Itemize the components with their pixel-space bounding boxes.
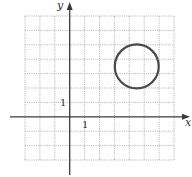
y-tick-label: 1	[60, 97, 66, 108]
circle	[115, 44, 159, 88]
y-axis-arrow-icon	[67, 2, 73, 10]
x-tick-label: 1	[82, 119, 88, 130]
coordinate-plane: x y 1 1	[0, 0, 192, 177]
y-axis-label: y	[56, 0, 64, 12]
axes	[10, 2, 190, 175]
grid	[25, 16, 174, 160]
x-axis-label: x	[185, 116, 192, 129]
